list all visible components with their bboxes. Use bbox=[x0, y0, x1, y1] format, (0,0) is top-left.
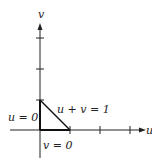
label-u-zero: u = 0 bbox=[8, 111, 38, 124]
label-v-zero: v = 0 bbox=[43, 139, 72, 152]
label-hypotenuse: u + v = 1 bbox=[57, 103, 110, 116]
u-axis-label: u bbox=[146, 124, 152, 137]
uv-plane-diagram: v u u = 0 v = 0 u + v = 1 bbox=[0, 0, 152, 161]
v-axis-label: v bbox=[38, 8, 45, 21]
v-axis-arrow-icon bbox=[38, 23, 43, 30]
u-axis-arrow-icon bbox=[139, 128, 146, 133]
